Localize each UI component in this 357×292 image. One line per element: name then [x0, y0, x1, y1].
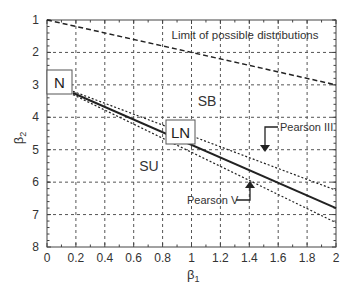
y-tick-label: 2 [32, 45, 39, 59]
x-axis-label: β1 [187, 267, 200, 284]
x-tick-label: 0.6 [125, 251, 142, 265]
series-ln [73, 93, 336, 208]
x-tick-label: 1 [188, 251, 195, 265]
pearson-v-annotation: Pearson V [187, 181, 255, 206]
limit-label: Limit of possible distributions [171, 29, 318, 41]
x-tick-label: 1.2 [212, 251, 229, 265]
x-tick-label: 1.8 [299, 251, 316, 265]
arrow-down-icon [260, 145, 270, 152]
y-tick-label: 4 [32, 110, 39, 124]
svg-text:Pearson V: Pearson V [187, 194, 239, 206]
x-tick-label: 0.2 [68, 251, 85, 265]
svg-text:N: N [54, 74, 65, 91]
y-tick-label: 1 [32, 13, 39, 27]
x-tick-label: 1.4 [241, 251, 258, 265]
svg-text:LN: LN [171, 124, 190, 141]
y-tick-label: 6 [32, 175, 39, 189]
y-tick-label: 8 [32, 240, 39, 254]
y-tick-label: 5 [32, 143, 39, 157]
ln-box: LN [166, 120, 195, 144]
su-region-label: SU [139, 158, 158, 174]
svg-text:Pearson III: Pearson III [280, 121, 333, 133]
n-box: N [47, 70, 72, 94]
y-tick-label: 7 [32, 208, 39, 222]
x-tick-label: 1.6 [270, 251, 287, 265]
x-tick-label: 0.4 [96, 251, 113, 265]
y-tick-label: 3 [32, 78, 39, 92]
sb-region-label: SB [198, 93, 217, 109]
chart: 00.20.40.60.811.21.41.61.8212345678 Limi… [0, 0, 357, 292]
x-tick-label: 0.8 [154, 251, 171, 265]
x-tick-label: 0 [44, 251, 51, 265]
y-axis-label: β2 [11, 132, 28, 145]
pearson-iii-annotation: Pearson III [260, 121, 333, 152]
x-tick-label: 2 [333, 251, 340, 265]
